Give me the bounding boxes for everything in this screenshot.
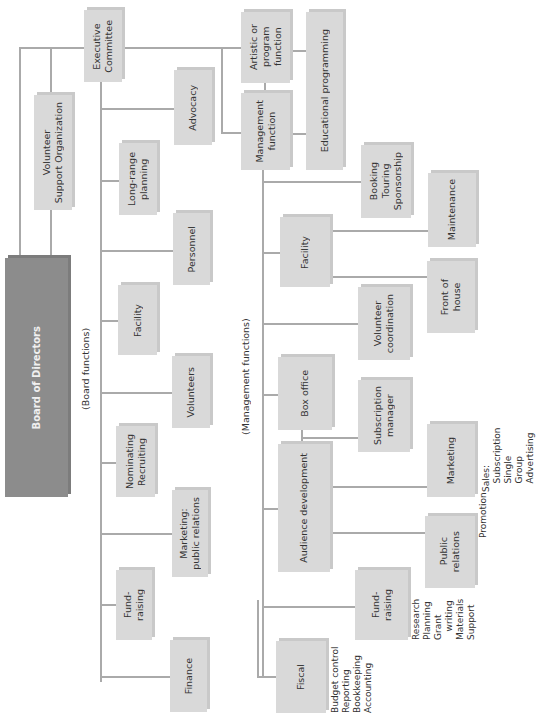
board-of-directors-label: Board of Directors <box>31 326 43 429</box>
volunteer-support-box: Volunteer Support Organization <box>34 95 72 210</box>
board-nominating-box: Nominating Recruiting <box>116 426 155 497</box>
branch-advocacy <box>100 108 174 110</box>
branch-facility <box>100 320 118 322</box>
educational-programming-label: Educational programming <box>319 29 331 152</box>
management-function-label: Management function <box>254 100 278 163</box>
board-trunk-exec <box>100 82 102 110</box>
board-personnel-label: Personnel <box>186 226 198 272</box>
board-of-directors-box: Board of Directors <box>5 258 68 497</box>
board-facility-box: Facility <box>118 285 157 355</box>
mgmt-subscription-manager-box: Subscription manager <box>358 380 410 452</box>
connector-mgmt-edu <box>290 133 306 135</box>
branch-volunteers <box>100 392 172 394</box>
board-facility-label: Facility <box>132 304 144 337</box>
mgmt-audience-development-label: Audience development <box>298 453 310 563</box>
board-volunteers-box: Volunteers <box>172 356 210 428</box>
board-personnel-box: Personnel <box>173 213 210 285</box>
branch-facility-mgmt <box>262 252 280 254</box>
connector-exec-mgmt-h <box>221 132 241 134</box>
artistic-function-box: Artistic or program function <box>241 12 290 83</box>
fiscal-notes: Budget control Reporting Bookkeeping Acc… <box>330 647 374 713</box>
educational-programming-box: Educational programming <box>306 12 343 170</box>
executive-committee-label: Executive Committee <box>91 20 115 73</box>
mgmt-volunteer-coordination-label: Volunteer coordination <box>372 294 396 353</box>
board-advocacy-box: Advocacy <box>174 70 212 145</box>
branch-finance <box>100 676 172 678</box>
connector-artistic-mgmt <box>264 83 266 93</box>
mgmt-maintenance-label: Maintenance <box>446 179 458 240</box>
mgmt-public-relations-label: Public relations <box>438 531 462 572</box>
connector-exec-mgmt <box>221 47 223 133</box>
branch-booking <box>262 181 361 183</box>
mgmt-booking-box: Booking Touring Sponsorship <box>361 145 411 218</box>
executive-committee-box: Executive Committee <box>84 10 122 82</box>
branch-aud-pr <box>330 532 425 534</box>
branch-fiscal <box>257 676 276 678</box>
board-nominating-label: Nominating Recruiting <box>124 434 148 489</box>
branch-marketing <box>100 533 172 535</box>
fundraising-notes: Research Planning Grant writing Material… <box>411 599 477 640</box>
mgmt-public-relations-box: Public relations <box>425 516 475 588</box>
mgmt-facility-box: Facility <box>280 217 330 287</box>
branch-facility-foh <box>330 276 427 278</box>
branch-nominating <box>100 462 116 464</box>
management-function-box: Management function <box>241 93 290 170</box>
board-advocacy-label: Advocacy <box>187 85 199 131</box>
management-functions-label: (Management functions) <box>240 325 251 435</box>
connector-top <box>19 47 241 49</box>
mgmt-fiscal-box: Fiscal <box>276 641 326 713</box>
mgmt-front-of-house-label: Front of house <box>439 279 463 315</box>
public-relations-notes: Promotion <box>478 492 489 538</box>
branch-aud-marketing <box>330 486 427 488</box>
mgmt-box-office-label: Box office <box>299 370 311 417</box>
mgmt-booking-label: Booking Touring Sponsorship <box>368 152 404 210</box>
board-finance-label: Finance <box>183 658 195 694</box>
mgmt-box-office-box: Box office <box>278 357 332 430</box>
mgmt-volunteer-coordination-box: Volunteer coordination <box>358 287 410 360</box>
board-trunk <box>100 82 102 682</box>
branch-subscription <box>301 437 358 439</box>
mgmt-subscription-manager-label: Subscription manager <box>372 386 396 445</box>
branch-boxoffice <box>262 394 278 396</box>
board-longrange-label: Long-range planning <box>126 152 150 206</box>
mgmt-front-of-house-box: Front of house <box>427 261 475 333</box>
branch-personnel <box>100 250 173 252</box>
artistic-function-label: Artistic or program function <box>248 24 284 70</box>
volunteer-support-label: Volunteer Support Organization <box>41 102 65 203</box>
branch-longrange <box>100 180 119 182</box>
mgmt-fundraising-label: Fund- raising <box>370 589 394 621</box>
board-marketing-label: Marketing: public relations <box>178 497 202 570</box>
mgmt-trunk <box>262 170 264 678</box>
mgmt-marketing-label: Marketing <box>445 437 457 484</box>
branch-volcoord <box>262 323 358 325</box>
branch-facility-maint <box>330 230 428 232</box>
board-volunteers-label: Volunteers <box>185 367 197 418</box>
branch-fundraising-mgmt <box>262 606 355 608</box>
mgmt-marketing-box: Marketing <box>427 424 475 497</box>
mgmt-fiscal-label: Fiscal <box>295 664 307 690</box>
board-longrange-box: Long-range planning <box>119 143 157 215</box>
board-finance-box: Finance <box>170 640 207 712</box>
mgmt-facility-label: Facility <box>299 236 311 269</box>
board-marketing-box: Marketing: public relations <box>172 490 208 577</box>
mgmt-trunk-bottom <box>257 600 259 678</box>
board-functions-label: (Board functions) <box>80 340 91 410</box>
connector-artistic-edu <box>290 50 306 52</box>
branch-fundraising <box>100 604 116 606</box>
branch-audience <box>262 508 278 510</box>
mgmt-maintenance-box: Maintenance <box>428 173 476 247</box>
board-fundraising-box: Fund- raising <box>116 570 152 640</box>
mgmt-fundraising-box: Fund- raising <box>355 570 408 640</box>
mgmt-audience-development-box: Audience development <box>278 444 330 572</box>
board-fundraising-label: Fund- raising <box>122 589 146 621</box>
marketing-notes: Sales: Subscription Single Group Adverti… <box>481 427 536 492</box>
connector-board-exec <box>19 47 21 259</box>
